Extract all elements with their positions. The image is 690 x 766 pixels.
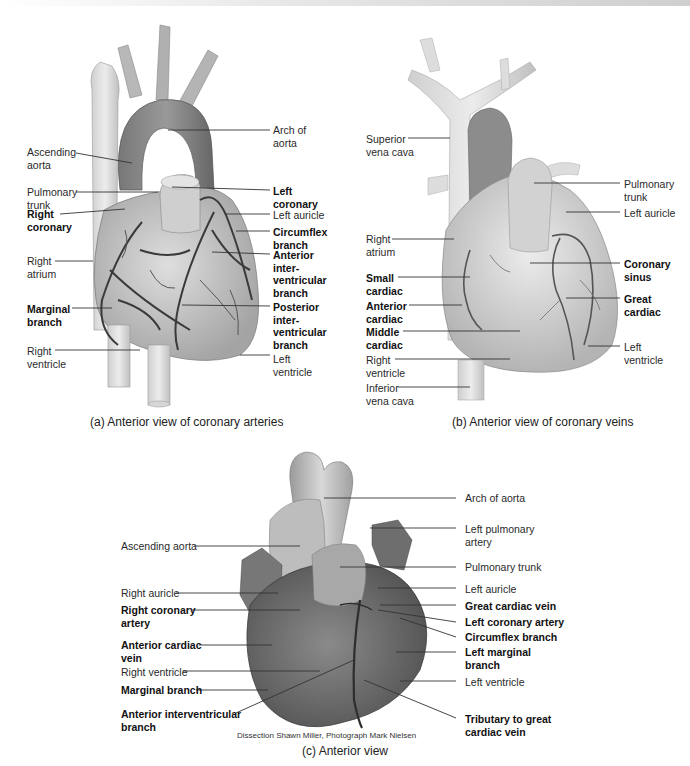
label-ascending-aorta: Ascendingaorta	[27, 146, 76, 171]
label-great-cardiac: Greatcardiac	[624, 293, 661, 318]
label-left-pulmonary-artery-c: Left pulmonaryartery	[465, 523, 534, 548]
label-right-atrium-b: Rightatrium	[366, 233, 395, 258]
label-superior-vena-cava: Superiorvena cava	[366, 133, 414, 158]
label-left-ventricle: Leftventricle	[273, 353, 312, 378]
label-great-cardiac-vein-c: Great cardiac vein	[465, 600, 556, 613]
label-right-auricle-c: Right auricle	[121, 587, 179, 600]
heart-c-photo	[240, 452, 427, 728]
heart-illustrations	[0, 0, 690, 766]
label-right-ventricle-c: Right ventricle	[121, 666, 188, 679]
label-circumflex-branch-c: Circumflex branch	[465, 631, 557, 644]
photo-credit: Dissection Shawn Miller, Photograph Mark…	[237, 731, 416, 740]
label-anterior-interventricular-branch: Anteriorinter-ventricularbranch	[273, 249, 327, 299]
label-tributary-great-cardiac-vein-c: Tributary to greatcardiac vein	[465, 713, 551, 738]
label-left-ventricle-b: Leftventricle	[624, 341, 663, 366]
label-pulmonary-trunk-c: Pulmonary trunk	[465, 561, 541, 574]
label-left-ventricle-c: Left ventricle	[465, 676, 525, 689]
label-left-coronary-artery-c: Left coronary artery	[465, 616, 564, 629]
label-right-coronary-artery-c: Right coronaryartery	[121, 604, 196, 629]
label-left-auricle-b: Left auricle	[624, 207, 675, 220]
label-right-atrium: Rightatrium	[27, 255, 56, 280]
label-posterior-interventricular-branch: Posteriorinter-ventricularbranch	[273, 301, 327, 351]
label-left-auricle: Left auricle	[273, 209, 324, 222]
label-left-auricle-c: Left auricle	[465, 583, 516, 596]
caption-c: (c) Anterior view	[302, 744, 388, 758]
label-left-marginal-branch-c: Left marginalbranch	[465, 646, 531, 671]
label-middle-cardiac: Middlecardiac	[366, 326, 403, 351]
label-left-coronary: Leftcoronary	[273, 185, 318, 210]
label-pulmonary-trunk-b: Pulmonarytrunk	[624, 178, 674, 203]
label-inferior-vena-cava: Inferiorvena cava	[366, 382, 414, 407]
label-ascending-aorta-c: Ascending aorta	[121, 540, 197, 553]
label-right-ventricle: Rightventricle	[27, 345, 66, 370]
label-anterior-cardiac: Anteriorcardiac	[366, 300, 407, 325]
caption-a: (a) Anterior view of coronary arteries	[90, 415, 283, 429]
caption-b: (b) Anterior view of coronary veins	[452, 415, 633, 429]
label-circumflex-branch: Circumflexbranch	[273, 226, 327, 251]
label-marginal-branch-c: Marginal branch	[121, 684, 202, 697]
label-anterior-interventricular-branch-c: Anterior interventricularbranch	[121, 708, 241, 733]
label-anterior-cardiac-vein-c: Anterior cardiacvein	[121, 639, 202, 664]
label-arch-of-aorta-c: Arch of aorta	[465, 492, 525, 505]
heart-b-drawing	[408, 38, 618, 400]
label-arch-of-aorta: Arch ofaorta	[273, 124, 306, 149]
label-right-coronary: Rightcoronary	[27, 208, 72, 233]
label-coronary-sinus: Coronarysinus	[624, 258, 671, 283]
label-marginal-branch: Marginalbranch	[27, 303, 70, 328]
label-small-cardiac: Smallcardiac	[366, 272, 403, 297]
label-right-ventricle-b: Rightventricle	[366, 354, 405, 379]
